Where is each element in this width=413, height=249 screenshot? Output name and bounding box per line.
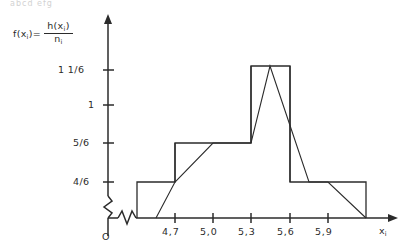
x-axis-break-zigzag — [118, 211, 136, 224]
origin-label: O — [102, 232, 110, 242]
x-tick-label-5-0: 5,0 — [200, 227, 218, 237]
formula-num-close: ) — [66, 20, 70, 31]
x-axis-name-label: xi — [379, 226, 386, 238]
y-tick-label-1-1-6: 1 1/6 — [58, 65, 84, 75]
formula-lhs-close: )= — [29, 28, 41, 39]
x-axis-name-subscript: i — [385, 230, 387, 238]
formula-denominator: ni — [44, 33, 72, 46]
x-tick-label-5-9: 5,9 — [315, 227, 333, 237]
formula-fraction: h(xi) ni — [44, 21, 72, 45]
y-axis-break-zigzag — [104, 196, 112, 218]
x-tick-label-4-7: 4,7 — [162, 227, 180, 237]
frequency-polygon — [156, 66, 366, 218]
x-tick-label-5-6: 5,6 — [277, 227, 295, 237]
x-axis-arrowhead — [388, 214, 398, 222]
x-axis-group — [108, 211, 398, 224]
frequency-polygon-line — [156, 66, 366, 218]
formula-den-subscript: i — [61, 38, 63, 46]
y-axis-formula-label: f(xi)= h(xi) ni — [13, 22, 73, 46]
y-tick-label-1: 1 — [88, 100, 94, 110]
figure-canvas: abcd efg — [0, 0, 413, 249]
x-tick-label-5-3: 5,3 — [238, 227, 256, 237]
formula-num-text: h(x — [47, 20, 63, 31]
y-tick-label-5-6: 5/6 — [73, 138, 90, 148]
formula-numerator: h(xi) — [44, 21, 72, 33]
y-axis-group — [103, 14, 114, 236]
y-tick-label-4-6: 4/6 — [73, 177, 90, 187]
y-axis-arrowhead — [104, 14, 112, 24]
formula-lhs: f(x — [13, 28, 27, 39]
